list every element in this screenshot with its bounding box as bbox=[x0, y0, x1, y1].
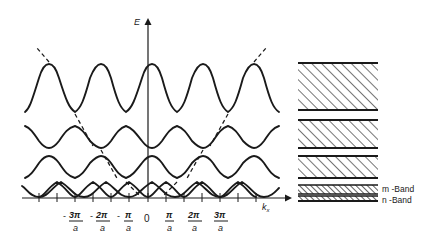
band-block-2 bbox=[298, 156, 378, 178]
tick-label-zero: 0 bbox=[144, 213, 150, 224]
dashed-segment-upper-right bbox=[254, 48, 266, 62]
tick-numerator: 2π bbox=[95, 210, 108, 220]
tick-denominator: a bbox=[126, 223, 131, 233]
band-block-4-fill bbox=[298, 63, 378, 110]
m-band-label: m -Band bbox=[382, 184, 414, 194]
dispersion-curve-band-4 bbox=[25, 64, 279, 112]
tick-numerator: 3π bbox=[69, 210, 81, 220]
tick-label-minus-pi-over-a: - π a bbox=[117, 210, 133, 233]
tick-numerator: 2π bbox=[187, 210, 200, 220]
tick-denominator: a bbox=[73, 223, 78, 233]
dashed-segment-upper-left bbox=[37, 48, 49, 62]
tick-label-3pi-over-a: 3π a bbox=[214, 210, 228, 233]
band-block-3-fill bbox=[298, 120, 378, 148]
dashed-segment-right-1 bbox=[210, 114, 228, 146]
tick-denominator: a bbox=[192, 223, 197, 233]
energy-axis-label: E bbox=[134, 17, 141, 27]
dispersion-plot: E kx bbox=[22, 17, 286, 233]
tick-denominator: a bbox=[100, 223, 105, 233]
tick-numerator: π bbox=[166, 210, 173, 220]
tick-label-pi-over-a: π a bbox=[165, 210, 174, 233]
dashed-segment-left-1 bbox=[75, 114, 93, 146]
tick-label-minus-2pi-over-a: - 2π a bbox=[90, 210, 110, 233]
allowed-bands-panel: m -Band n -Band bbox=[298, 63, 414, 205]
tick-sign: - bbox=[63, 211, 66, 221]
tick-sign: - bbox=[117, 211, 120, 221]
tick-sign: - bbox=[90, 211, 93, 221]
tick-numerator: 3π bbox=[214, 210, 226, 220]
tick-numerator: π bbox=[125, 210, 132, 220]
tick-numerator: 0 bbox=[144, 213, 150, 224]
tick-denominator: a bbox=[167, 223, 172, 233]
band-structure-svg: E kx bbox=[0, 0, 424, 237]
band-block-4 bbox=[298, 63, 378, 110]
tick-label-minus-3pi-over-a: - 3π a bbox=[63, 210, 83, 233]
band-structure-figure: E kx bbox=[0, 0, 424, 237]
wavevector-axis: kx bbox=[22, 198, 286, 213]
x-axis-tick-labels: - 3π a - 2π a - π a bbox=[63, 210, 228, 233]
dashed-segment-right-2 bbox=[186, 150, 203, 180]
band-block-2-fill bbox=[298, 156, 378, 178]
band-block-m-fill bbox=[298, 185, 378, 194]
free-electron-dashed-branches bbox=[37, 48, 266, 197]
band-block-m: m -Band bbox=[298, 184, 414, 194]
dispersion-curve-band-2 bbox=[25, 156, 279, 178]
dispersion-curve-band-3 bbox=[25, 126, 279, 148]
wavevector-axis-label: kx bbox=[262, 202, 271, 213]
n-band-label: n -Band bbox=[382, 195, 412, 205]
band-block-3 bbox=[298, 120, 378, 148]
dashed-segment-left-2 bbox=[101, 150, 118, 180]
tick-label-2pi-over-a: 2π a bbox=[187, 210, 202, 233]
band-block-n: n -Band bbox=[298, 195, 412, 205]
tick-denominator: a bbox=[218, 223, 223, 233]
